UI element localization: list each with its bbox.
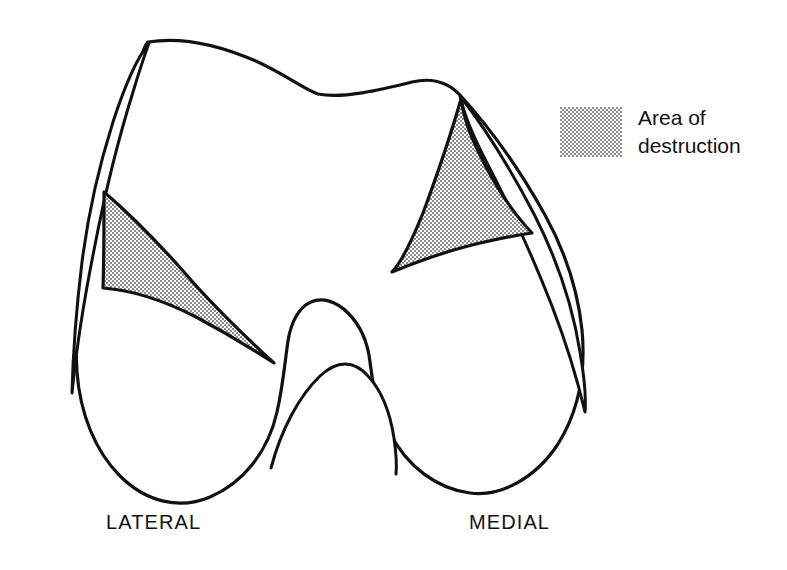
label-lateral: LATERAL [106, 511, 201, 534]
stipple-pattern-swatch [560, 107, 622, 157]
figure-root: LATERAL MEDIAL Area of destruction [0, 0, 787, 570]
label-medial: MEDIAL [469, 511, 550, 534]
distal-femur-drawing [0, 0, 787, 570]
legend-label: Area of destruction [638, 104, 741, 160]
legend: Area of destruction [560, 107, 741, 160]
